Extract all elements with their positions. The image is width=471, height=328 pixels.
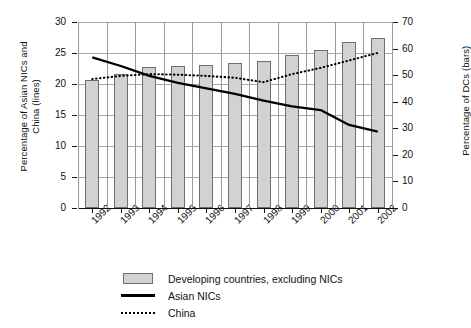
bar-1995 <box>171 66 185 208</box>
x-tick-mark <box>121 208 122 213</box>
bar-1999 <box>285 55 299 208</box>
right-tick-mark <box>393 102 398 103</box>
bar-1993 <box>114 74 128 208</box>
bar-2002 <box>371 38 385 208</box>
left-tick-label: 20 <box>44 78 66 89</box>
right-tick-mark <box>393 75 398 76</box>
legend-item-china: China <box>118 304 343 321</box>
bar-1997 <box>228 63 242 208</box>
right-tick-label: 20 <box>402 149 424 160</box>
left-axis-line <box>78 22 79 209</box>
right-tick-mark <box>393 181 398 182</box>
right-tick-mark <box>393 49 398 50</box>
category-separator <box>335 22 336 208</box>
solid-line-swatch-icon <box>118 294 158 297</box>
category-separator <box>107 22 108 208</box>
x-tick-mark <box>178 208 179 213</box>
legend-label-developing-countries: Developing countries, excluding NICs <box>168 273 343 285</box>
right-tick-label: 60 <box>402 43 424 54</box>
category-separator <box>164 22 165 208</box>
bar-2000 <box>314 50 328 208</box>
right-tick-label: 70 <box>402 16 424 27</box>
category-separator <box>278 22 279 208</box>
right-tick-label: 50 <box>402 69 424 80</box>
x-tick-mark <box>264 208 265 213</box>
category-separator <box>249 22 250 208</box>
right-tick-label: 0 <box>402 202 424 213</box>
left-tick-mark <box>72 84 77 85</box>
left-tick-mark <box>72 115 77 116</box>
category-separator <box>135 22 136 208</box>
legend-label-asian-nics: Asian NICs <box>168 290 221 302</box>
right-tick-mark <box>393 155 398 156</box>
legend-item-developing-countries: Developing countries, excluding NICs <box>118 270 343 287</box>
right-tick-label: 40 <box>402 96 424 107</box>
left-tick-mark <box>72 146 77 147</box>
chart-legend: Developing countries, excluding NICs Asi… <box>118 270 343 321</box>
bar-1996 <box>199 65 213 208</box>
right-axis-title: Percentage of DCs (bars) <box>460 13 471 188</box>
category-separator <box>306 22 307 208</box>
left-tick-label: 5 <box>44 171 66 182</box>
legend-item-asian-nics: Asian NICs <box>118 287 343 304</box>
left-tick-label: 15 <box>44 109 66 120</box>
right-tick-label: 30 <box>402 122 424 133</box>
bar-1992 <box>85 80 99 208</box>
legend-label-china: China <box>168 307 195 319</box>
bar-2001 <box>342 42 356 208</box>
left-axis-title: Percentage of Asian NICs and China (line… <box>18 19 41 194</box>
bar-1998 <box>257 61 271 208</box>
x-tick-mark <box>321 208 322 213</box>
left-tick-mark <box>72 53 77 54</box>
x-tick-mark <box>378 208 379 213</box>
left-tick-label: 25 <box>44 47 66 58</box>
category-separator <box>221 22 222 208</box>
right-tick-mark <box>393 128 398 129</box>
gridline <box>78 22 392 23</box>
left-tick-label: 30 <box>44 16 66 27</box>
category-separator <box>363 22 364 208</box>
left-tick-mark <box>72 177 77 178</box>
left-tick-label: 10 <box>44 140 66 151</box>
left-tick-mark <box>72 208 77 209</box>
left-tick-mark <box>72 22 77 23</box>
category-separator <box>192 22 193 208</box>
category-separator <box>392 22 393 208</box>
bar-1994 <box>142 67 156 208</box>
bar-swatch-icon <box>118 273 158 284</box>
dotted-line-swatch-icon <box>118 312 158 314</box>
left-tick-label: 0 <box>44 202 66 213</box>
right-tick-label: 10 <box>402 175 424 186</box>
right-tick-mark <box>393 22 398 23</box>
